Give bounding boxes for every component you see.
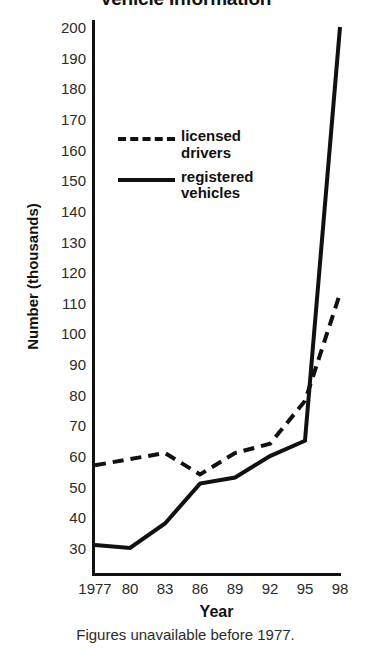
y-tick-label: 140 (30, 204, 86, 219)
y-tick-label: 50 (30, 480, 86, 495)
solid-line-swatch-icon (118, 169, 175, 189)
y-tick-label: 160 (30, 143, 86, 158)
y-tick-label: 130 (30, 235, 86, 250)
x-tick-label: 1977 (78, 581, 111, 596)
chart-footnote: Figures unavailable before 1977. (0, 626, 371, 643)
y-tick-label: 100 (30, 326, 86, 341)
y-tick-label: 200 (30, 20, 86, 35)
x-tick-label: 83 (157, 581, 174, 596)
y-tick-label: 60 (30, 449, 86, 464)
x-axis-tick-labels: 197780838689929598 (92, 581, 341, 601)
y-tick-label: 190 (30, 51, 86, 66)
y-tick-label: 180 (30, 81, 86, 96)
y-tick-label: 70 (30, 418, 86, 433)
x-tick-label: 86 (192, 581, 209, 596)
x-tick-label: 98 (332, 581, 349, 596)
y-tick-label: 170 (30, 112, 86, 127)
y-tick-label: 40 (30, 510, 86, 525)
x-tick-label: 92 (262, 581, 279, 596)
chart-legend: licenseddrivers registeredvehicles (118, 128, 288, 209)
series-registered-vehicles (95, 27, 340, 548)
y-tick-label: 80 (30, 388, 86, 403)
dashed-line-swatch-icon (118, 128, 175, 148)
x-tick-label: 89 (227, 581, 244, 596)
x-tick-label: 95 (297, 581, 314, 596)
plot-area (92, 20, 341, 576)
legend-item-registered-vehicles: registeredvehicles (118, 169, 288, 203)
plot-svg (92, 20, 341, 576)
series-licensed-drivers (95, 294, 340, 475)
y-tick-label: 30 (30, 541, 86, 556)
y-axis-tick-labels: 2001901801701601501401301201101009080706… (28, 0, 86, 658)
y-tick-label: 120 (30, 265, 86, 280)
y-tick-label: 90 (30, 357, 86, 372)
legend-item-licensed-drivers: licenseddrivers (118, 128, 288, 162)
legend-label-licensed-drivers: licenseddrivers (175, 128, 241, 162)
y-tick-label: 150 (30, 173, 86, 188)
legend-label-registered-vehicles: registeredvehicles (175, 169, 254, 203)
x-axis-title: Year (92, 603, 341, 621)
x-tick-label: 80 (122, 581, 139, 596)
chart-figure: Vehicle Information Number (thousands) 2… (0, 0, 371, 658)
y-tick-label: 110 (30, 296, 86, 311)
